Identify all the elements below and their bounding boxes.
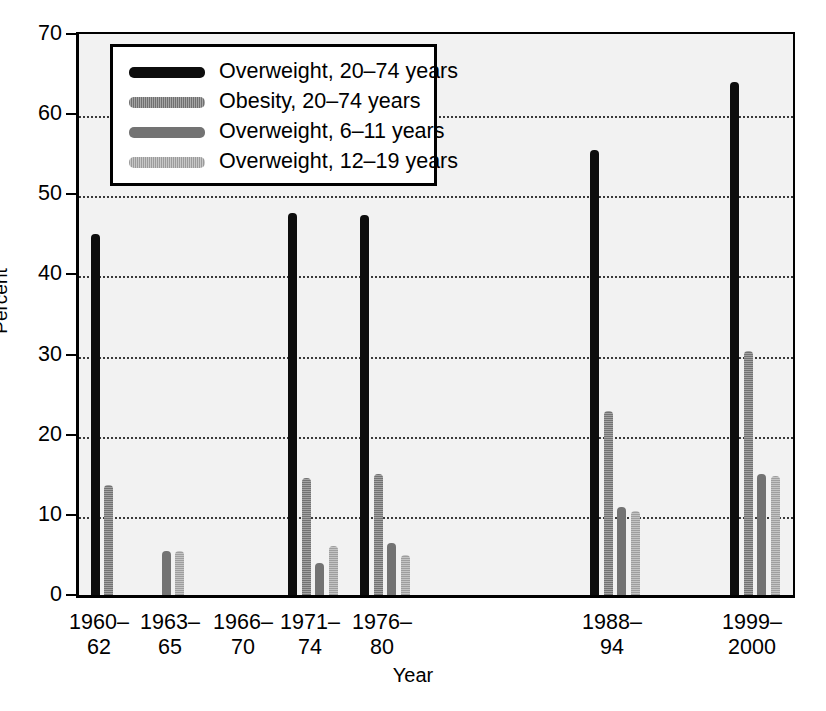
gridline	[79, 517, 793, 519]
bar	[631, 511, 640, 595]
y-axis: 010203040506070	[0, 0, 76, 711]
y-axis-tick-mark	[66, 594, 76, 596]
legend-swatch-icon	[129, 67, 205, 78]
x-axis-tick-label: 1999–2000	[692, 610, 812, 660]
x-axis-tick-label: 1976–80	[322, 610, 442, 660]
bar	[104, 485, 113, 595]
bar	[604, 411, 613, 595]
x-axis-tick-label-line: 1976–	[322, 610, 442, 635]
bar	[302, 478, 311, 595]
y-axis-tick-label: 70	[0, 23, 62, 45]
gridline	[79, 276, 793, 278]
legend-swatch-icon	[129, 157, 205, 168]
legend-swatch-icon	[129, 97, 205, 108]
x-axis-tick-label: 1988–94	[552, 610, 672, 660]
x-axis-tick-label-line: 2000	[692, 635, 812, 660]
gridline	[79, 196, 793, 198]
legend-item: Obesity, 20–74 years	[113, 87, 434, 117]
legend-item: Overweight, 20–74 years	[113, 57, 434, 87]
bar	[730, 82, 739, 595]
x-axis-tick-label-line: 80	[322, 635, 442, 660]
legend-item: Overweight, 6–11 years	[113, 117, 434, 147]
x-axis-tick-label-line: 94	[552, 635, 672, 660]
y-axis-tick-label: 20	[0, 424, 62, 446]
x-axis-tick-label-line: 1999–	[692, 610, 812, 635]
bar	[757, 474, 766, 595]
bar	[771, 476, 780, 595]
y-axis-tick-mark	[66, 113, 76, 115]
bar	[315, 563, 324, 595]
y-axis-tick-label: 50	[0, 183, 62, 205]
gridline	[79, 357, 793, 359]
legend-swatch-icon	[129, 127, 205, 138]
y-axis-tick-mark	[66, 434, 76, 436]
x-axis-title: Year	[0, 664, 826, 687]
y-axis-tick-mark	[66, 514, 76, 516]
y-axis-tick-label: 0	[0, 584, 62, 606]
bar	[175, 551, 184, 595]
y-axis-tick-mark	[66, 33, 76, 35]
legend-item: Overweight, 12–19 years	[113, 147, 434, 177]
legend-item-label: Overweight, 6–11 years	[219, 121, 444, 143]
gridline	[79, 437, 793, 439]
chart-legend: Overweight, 20–74 yearsObesity, 20–74 ye…	[110, 44, 437, 186]
legend-item-label: Obesity, 20–74 years	[219, 91, 421, 113]
legend-item-label: Overweight, 12–19 years	[219, 151, 458, 173]
bar	[401, 555, 410, 595]
bar	[744, 351, 753, 595]
chart-canvas: 010203040506070 Percent 1960–621963–6519…	[0, 0, 826, 711]
bar	[617, 507, 626, 595]
y-axis-tick-label: 10	[0, 504, 62, 526]
y-axis-title: Percent	[0, 268, 12, 333]
y-axis-tick-mark	[66, 273, 76, 275]
bar	[387, 543, 396, 595]
y-axis-tick-mark	[66, 354, 76, 356]
bar	[162, 551, 171, 595]
bar	[374, 474, 383, 595]
bar	[360, 215, 369, 595]
x-axis-tick-label-line: 1988–	[552, 610, 672, 635]
bar	[590, 150, 599, 595]
bar	[288, 213, 297, 595]
y-axis-tick-mark	[66, 193, 76, 195]
legend-item-label: Overweight, 20–74 years	[219, 61, 458, 83]
y-axis-tick-label: 30	[0, 344, 62, 366]
bar	[91, 234, 100, 595]
bar	[329, 546, 338, 595]
y-axis-tick-label: 60	[0, 103, 62, 125]
